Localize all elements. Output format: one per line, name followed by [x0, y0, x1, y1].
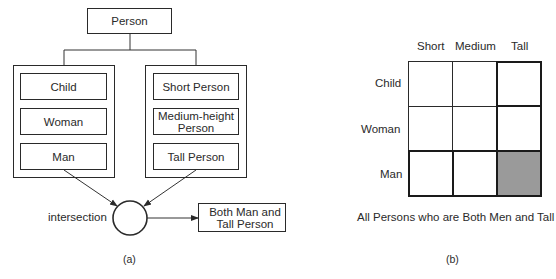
- cell-man-medium: [452, 150, 498, 197]
- caption-a: (a): [123, 253, 136, 265]
- row-header-child: Child: [375, 77, 401, 89]
- column-header-tall: Tall: [511, 40, 528, 52]
- man-box: Man: [20, 143, 107, 170]
- column-header-medium: Medium: [455, 40, 496, 52]
- cell-woman-short: [408, 106, 453, 152]
- cell-child-medium: [452, 61, 498, 107]
- intersection-circle: [113, 201, 147, 235]
- cell-child-short: [408, 61, 453, 107]
- medium-height-person-box: Medium-height Person: [153, 108, 239, 135]
- result-box: Both Man and Tall Person: [198, 203, 286, 232]
- matrix-description: All Persons who are Both Men and Tall: [357, 211, 554, 223]
- cell-man-tall-highlighted: [496, 150, 542, 197]
- short-person-box: Short Person: [153, 73, 239, 100]
- row-header-man: Man: [380, 168, 402, 180]
- cell-child-tall: [496, 61, 542, 107]
- person-box: Person: [87, 8, 172, 34]
- caption-b: (b): [446, 253, 459, 265]
- person-label: Person: [111, 15, 147, 27]
- row-header-woman: Woman: [361, 123, 400, 135]
- tall-person-box: Tall Person: [153, 143, 239, 170]
- intersection-label: intersection: [48, 211, 107, 223]
- cell-woman-medium: [452, 106, 498, 152]
- cell-man-short: [408, 150, 454, 197]
- child-box: Child: [20, 73, 107, 100]
- woman-box: Woman: [20, 108, 107, 135]
- cell-woman-tall: [496, 105, 542, 152]
- column-header-short: Short: [417, 40, 445, 52]
